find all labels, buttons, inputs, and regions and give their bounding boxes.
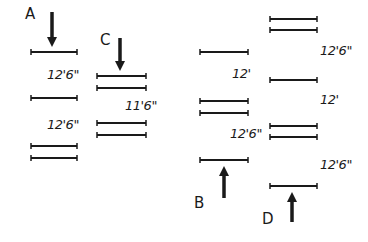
level-line-d-3 [270,77,317,83]
arrow-down-icon-c [115,38,125,71]
dimension-label-a-1: 12'6" [47,68,79,81]
level-line-c-1 [97,73,146,79]
level-line-a-1 [31,49,77,55]
level-line-a-3 [31,143,77,149]
dimension-label-b-1: 12' [232,67,251,80]
level-line-d-6 [270,183,317,189]
level-line-a-4 [31,155,77,161]
config-label-a: A [25,7,35,22]
level-line-c-3 [97,120,146,126]
level-line-b-4 [200,157,248,163]
level-line-c-2 [97,85,146,91]
level-line-b-1 [200,49,248,55]
level-line-b-3 [200,110,248,116]
level-line-a-2 [31,95,77,101]
dimension-label-b-2: 12'6" [230,127,262,140]
config-label-d: D [262,212,274,227]
dimension-label-d-1: 12'6" [320,44,352,57]
dimension-label-a-2: 12'6" [47,118,79,131]
dimension-label-c-1: 11'6" [125,99,157,112]
level-line-d-2 [270,27,317,33]
arrow-down-icon-a [47,12,57,47]
arrow-up-icon-b [219,166,229,198]
level-line-b-2 [200,98,248,104]
dimension-label-d-3: 12'6" [320,158,352,171]
level-line-d-4 [270,123,317,129]
level-line-d-5 [270,134,317,140]
config-label-c: C [100,33,110,48]
config-label-b: B [194,196,204,211]
arrow-up-icon-d [287,192,297,222]
level-line-c-4 [97,132,146,138]
level-line-d-1 [270,16,317,22]
dimension-label-d-2: 12' [320,93,339,106]
